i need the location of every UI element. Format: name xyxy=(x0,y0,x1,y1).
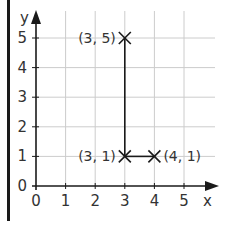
coordinate-plot: 012345012345 (3, 5)(3, 1)(4, 1) x y xyxy=(0,0,228,231)
y-tick-label: 5 xyxy=(17,29,27,47)
x-tick-label: 2 xyxy=(90,192,100,210)
y-tick-label: 4 xyxy=(17,59,27,77)
y-axis-arrow-icon xyxy=(31,10,41,24)
x-tick-label: 4 xyxy=(150,192,160,210)
left-border-bar xyxy=(7,0,10,221)
x-axis-arrow-icon xyxy=(205,181,219,191)
x-tick-label: 0 xyxy=(31,192,41,210)
x-tick-label: 5 xyxy=(179,192,189,210)
point-label: (4, 1) xyxy=(163,148,201,164)
y-tick-label: 1 xyxy=(17,147,27,165)
x-tick-label: 1 xyxy=(61,192,71,210)
y-axis-label: y xyxy=(20,9,29,27)
point-label: (3, 5) xyxy=(78,30,116,46)
x-tick-label: 3 xyxy=(120,192,130,210)
x-axis-label: x xyxy=(203,192,212,210)
y-tick-label: 3 xyxy=(17,88,27,106)
y-tick-label: 2 xyxy=(17,118,27,136)
tick-labels: 012345012345 xyxy=(17,29,188,210)
y-tick-label: 0 xyxy=(17,177,27,195)
point-label: (3, 1) xyxy=(78,148,116,164)
